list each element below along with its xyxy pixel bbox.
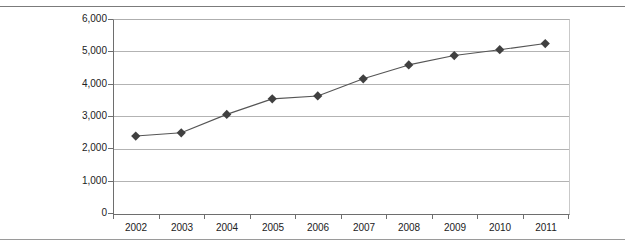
x-tick-mark [432,214,433,219]
y-tick-label: 5,000 [49,45,107,56]
x-tick-label-2006: 2006 [295,222,341,233]
x-tick-mark [386,214,387,219]
x-tick-label-2005: 2005 [250,222,296,233]
y-tick-label: 0 [49,207,107,218]
x-tick-label-2010: 2010 [477,222,523,233]
x-tick-mark [295,214,296,219]
x-tick-mark [568,214,569,219]
x-tick-label-2007: 2007 [341,222,387,233]
line-chart: 6,000 5,000 4,000 3,000 2,000 1,000 0 [0,0,625,246]
x-tick-mark [523,214,524,219]
y-tick-label: 2,000 [49,142,107,153]
x-tick-label-2002: 2002 [113,222,159,233]
x-tick-label-2004: 2004 [204,222,250,233]
x-tick-label-2009: 2009 [432,222,478,233]
x-tick-mark [477,214,478,219]
gridline [114,51,569,52]
x-tick-mark [159,214,160,219]
gridline [114,181,569,182]
gridline [114,149,569,150]
y-tick-label: 6,000 [49,13,107,24]
x-tick-label-2003: 2003 [159,222,205,233]
y-tick-label: 3,000 [49,110,107,121]
gridline [114,84,569,85]
y-tick-label: 1,000 [49,175,107,186]
x-tick-label-2011: 2011 [523,222,569,233]
plot-area [113,19,570,215]
x-tick-mark [341,214,342,219]
x-tick-label-2008: 2008 [386,222,432,233]
gridline [114,116,569,117]
x-tick-mark [204,214,205,219]
y-tick-label: 4,000 [49,78,107,89]
x-tick-mark [250,214,251,219]
x-tick-mark [113,214,114,219]
